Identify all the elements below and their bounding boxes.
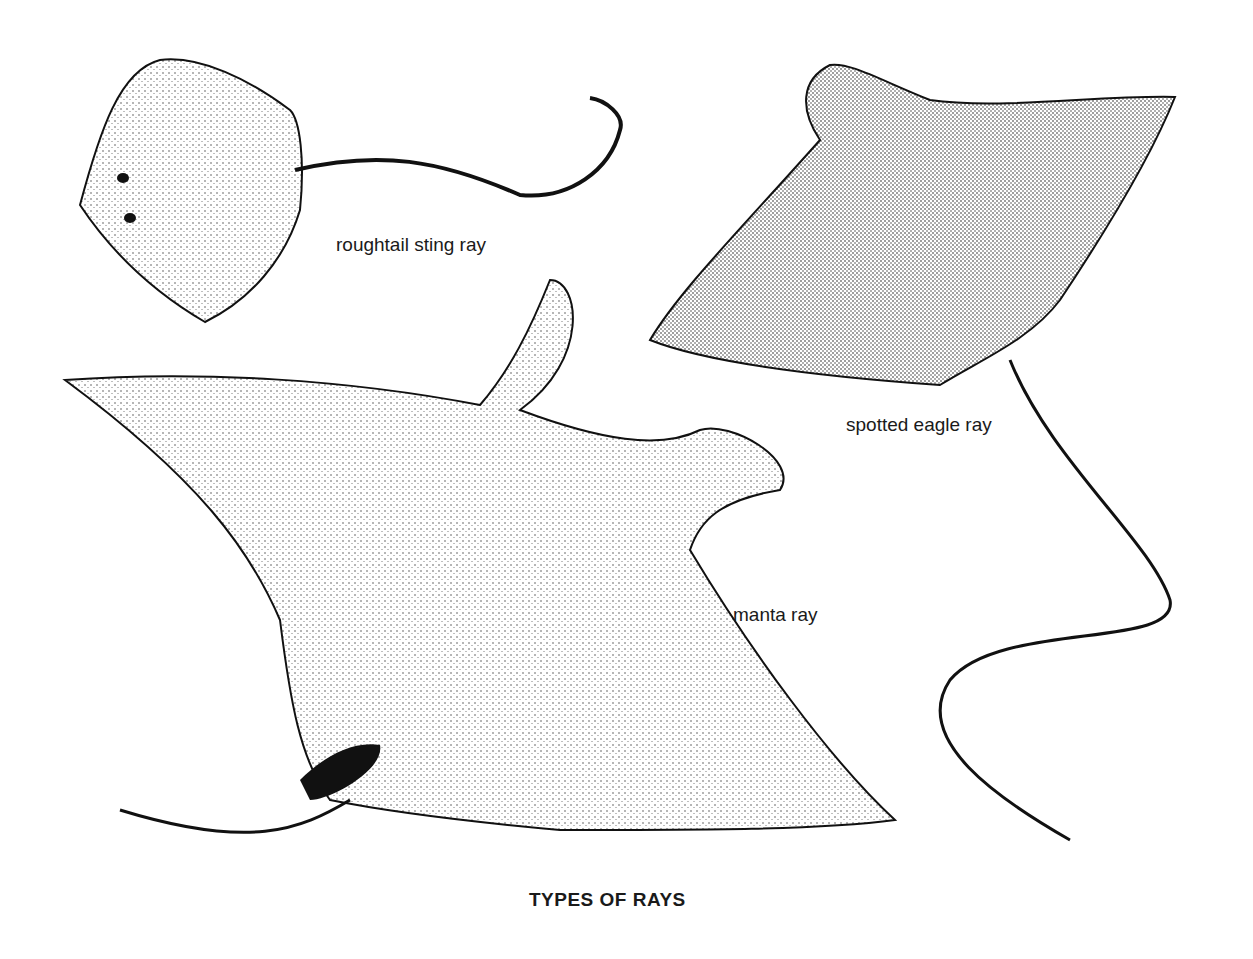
label-spotted-eagle-ray: spotted eagle ray xyxy=(846,414,992,436)
label-roughtail-sting-ray: roughtail sting ray xyxy=(336,234,486,256)
label-manta-ray: manta ray xyxy=(733,604,817,626)
figure-caption: TYPES OF RAYS xyxy=(529,889,686,911)
roughtail-sting-ray-drawing xyxy=(80,59,621,322)
rays-illustration xyxy=(0,0,1253,959)
